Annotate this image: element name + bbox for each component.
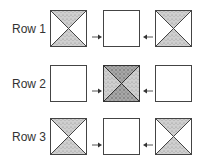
row1-box-right-hourglass (155, 10, 192, 47)
row3-arrow-right-icon (92, 134, 102, 140)
row-label-3: Row 3 (12, 130, 46, 144)
row-label-1: Row 1 (12, 22, 46, 36)
row3-arrow-left-icon (143, 134, 153, 140)
row3-box-left-hourglass (50, 118, 87, 155)
row1-box-left-hourglass (50, 10, 87, 47)
row2-box-middle-full (103, 65, 140, 102)
row1-box-middle-empty (103, 10, 140, 47)
row2-arrow-left-icon (143, 80, 153, 86)
row-label-2: Row 2 (12, 77, 46, 91)
row1-arrow-right-icon (92, 26, 102, 32)
row2-box-right-empty (155, 65, 192, 102)
row3-box-middle-empty (103, 118, 140, 155)
row2-arrow-right-icon (92, 80, 102, 86)
row3-box-right-hourglass (155, 118, 192, 155)
row2-box-left-empty (50, 65, 87, 102)
row1-arrow-left-icon (143, 26, 153, 32)
